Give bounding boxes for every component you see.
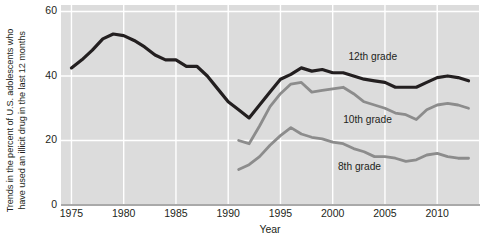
x-axis-line (61, 204, 480, 206)
x-tick-label: 1975 (48, 207, 94, 219)
series-line-10th-grade (239, 82, 469, 143)
x-tick-label: 2005 (362, 207, 408, 219)
x-axis-title: Year (61, 223, 479, 235)
y-axis-title: Trends in the percent of U.S. adolescent… (0, 0, 34, 241)
x-tick-label: 2000 (310, 207, 356, 219)
series-lines (71, 34, 468, 169)
x-tick-label: 1980 (101, 207, 147, 219)
y-tick-label: 20 (33, 133, 57, 145)
series-label-10th-grade: 10th grade (343, 114, 392, 125)
series-label-8th-grade: 8th grade (338, 161, 381, 172)
y-tick-label: 40 (33, 69, 57, 81)
x-tick-label: 1995 (257, 207, 303, 219)
y-tick-label: 60 (33, 4, 57, 16)
plot-svg (61, 5, 479, 205)
chart-figure: Trends in the percent of U.S. adolescent… (0, 0, 484, 241)
x-tick-label: 2010 (414, 207, 460, 219)
y-axis-title-text: Trends in the percent of U.S. adolescent… (5, 29, 28, 213)
plot-area (61, 5, 479, 205)
series-label-12th-grade: 12th grade (348, 51, 397, 62)
x-tick-label: 1990 (205, 207, 251, 219)
x-tick-label: 1985 (153, 207, 199, 219)
